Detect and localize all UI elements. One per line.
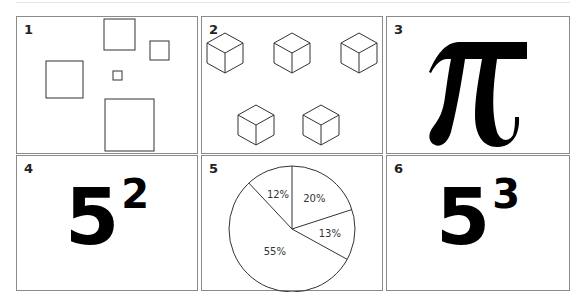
panel-6-five-cubed: 6 53 bbox=[386, 155, 570, 291]
square bbox=[46, 61, 83, 98]
cube bbox=[238, 105, 274, 145]
square bbox=[105, 99, 154, 151]
cube bbox=[274, 33, 310, 73]
top-rule bbox=[16, 2, 570, 3]
pie-label: 20% bbox=[303, 193, 325, 204]
square bbox=[150, 41, 169, 60]
square bbox=[113, 71, 122, 80]
cubes-figure bbox=[202, 17, 384, 155]
base: 5 bbox=[436, 172, 490, 262]
panel-1-squares: 1 bbox=[16, 16, 198, 154]
pie-label: 55% bbox=[264, 246, 286, 257]
pie-chart: 20%13%55%12% bbox=[202, 156, 384, 292]
cube bbox=[341, 33, 377, 73]
pie-label: 13% bbox=[319, 228, 341, 239]
exponent: 2 bbox=[121, 171, 149, 217]
panel-3-pi: 3 bbox=[386, 16, 570, 154]
panel-4-five-squared: 4 52 bbox=[16, 155, 198, 291]
square bbox=[104, 19, 135, 50]
base: 5 bbox=[65, 172, 119, 262]
panel-number: 4 bbox=[24, 162, 33, 175]
power-expression: 53 bbox=[387, 178, 569, 256]
exponent: 3 bbox=[492, 171, 520, 217]
pi-symbol bbox=[387, 17, 571, 155]
panel-5-pie-chart: 5 20%13%55%12% bbox=[201, 155, 383, 291]
cube bbox=[207, 33, 243, 73]
squares-figure bbox=[17, 17, 199, 155]
cube bbox=[303, 105, 339, 145]
pie-label: 12% bbox=[267, 189, 289, 200]
panel-number: 6 bbox=[394, 162, 403, 175]
power-expression: 52 bbox=[17, 178, 197, 256]
panel-2-cubes: 2 bbox=[201, 16, 383, 154]
